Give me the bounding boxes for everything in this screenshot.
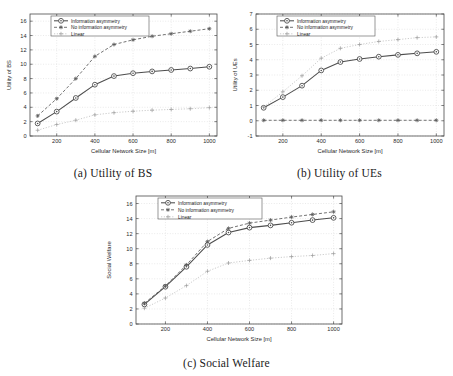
marker-circle-dot	[228, 232, 230, 234]
y-tick-label: 4	[249, 57, 252, 63]
marker-circle-dot	[94, 84, 96, 86]
x-axis-title: Cellular Network Size [m]	[206, 336, 271, 342]
y-tick-label: 4	[129, 291, 132, 297]
y-tick-label: 14	[20, 33, 26, 39]
marker-circle-dot	[113, 75, 115, 77]
marker-circle-dot	[151, 71, 153, 73]
series-line-0	[38, 67, 210, 124]
y-tick-label: 2	[23, 119, 26, 125]
y-tick-label: 16	[20, 18, 26, 24]
x-tick-label: 400	[317, 138, 326, 144]
x-tick-label: 800	[393, 138, 402, 144]
y-tick-label: 0	[129, 321, 132, 327]
y-tick-label: 2	[129, 306, 132, 312]
plot-area-b: -1012345672004006008001000Cellular Netwo…	[226, 2, 453, 166]
x-tick-label: 600	[245, 326, 254, 332]
y-tick-label: 6	[23, 90, 26, 96]
y-tick-label: 14	[126, 216, 132, 222]
legend-label-1: No information asymmetry	[297, 25, 354, 30]
y-tick-label: 1	[249, 103, 252, 109]
marker-circle-dot	[416, 53, 418, 55]
marker-circle-dot	[209, 66, 211, 68]
legend-marker-circle-dot	[167, 202, 169, 204]
x-tick-label: 600	[355, 138, 364, 144]
legend-label-2: Linear	[178, 215, 192, 220]
y-tick-label: 0	[23, 133, 26, 139]
y-tick-label: 10	[126, 246, 132, 252]
y-tick-label: 8	[129, 261, 132, 267]
plot-area-c: 02468101214162004006008001000Cellular Ne…	[100, 184, 353, 356]
y-tick-label: 16	[126, 201, 132, 207]
x-tick-label: 1000	[430, 138, 442, 144]
y-tick-label: 7	[249, 11, 252, 17]
marker-circle-dot	[301, 85, 303, 87]
legend-marker-circle-dot	[286, 20, 288, 22]
y-tick-label: 8	[23, 76, 26, 82]
x-axis-title: Cellular Network Size [m]	[91, 148, 156, 154]
marker-circle-dot	[75, 97, 77, 99]
y-tick-label: 5	[249, 42, 252, 48]
x-tick-label: 200	[278, 138, 287, 144]
marker-circle-dot	[282, 96, 284, 98]
y-tick-label: 6	[129, 276, 132, 282]
series-line-1	[144, 212, 333, 303]
figure-container: 02468101214162004006008001000Cellular Ne…	[0, 0, 453, 376]
y-tick-label: 4	[23, 104, 26, 110]
plot-area-a: 02468101214162004006008001000Cellular Ne…	[0, 2, 226, 166]
y-tick-label: 2	[249, 87, 252, 93]
marker-circle-dot	[312, 219, 314, 221]
marker-circle-dot	[397, 54, 399, 56]
x-tick-label: 800	[287, 326, 296, 332]
marker-circle-dot	[340, 61, 342, 63]
y-tick-label: 10	[20, 61, 26, 67]
subfigure-a-caption: (a) Utility of BS	[0, 167, 226, 179]
y-tick-label: 12	[126, 231, 132, 237]
y-axis-title: Social Welfare	[106, 241, 112, 278]
marker-circle-dot	[207, 244, 209, 246]
x-tick-label: 600	[128, 138, 137, 144]
chart-svg-b: -1012345672004006008001000Cellular Netwo…	[226, 2, 453, 166]
marker-circle-dot	[270, 225, 272, 227]
x-tick-label: 1000	[203, 138, 215, 144]
y-tick-label: 0	[249, 118, 252, 124]
y-axis-title: Utility of UEs	[232, 58, 238, 91]
legend-label-2: Linear	[297, 32, 311, 37]
series-line-0	[144, 218, 333, 305]
legend-label-1: No information asymmetry	[71, 25, 128, 30]
marker-circle-dot	[37, 123, 39, 125]
x-axis-title: Cellular Network Size [m]	[317, 148, 382, 154]
y-tick-label: -1	[248, 133, 253, 139]
x-tick-label: 200	[161, 326, 170, 332]
marker-circle-dot	[132, 72, 134, 74]
legend-label-0: Information asymmetry	[297, 19, 346, 24]
marker-circle-dot	[320, 70, 322, 72]
x-tick-label: 400	[203, 326, 212, 332]
series-line-2	[144, 254, 333, 309]
series-line-2	[264, 37, 437, 107]
x-tick-label: 200	[52, 138, 61, 144]
legend-marker-circle-dot	[60, 20, 62, 22]
subfigure-c-caption: (c) Social Welfare	[100, 357, 353, 369]
y-tick-label: 12	[20, 47, 26, 53]
marker-circle-dot	[249, 227, 251, 229]
marker-circle-dot	[189, 68, 191, 70]
y-tick-label: 6	[249, 26, 252, 32]
y-tick-label: 3	[249, 72, 252, 78]
y-axis-title: Utility of BS	[6, 60, 12, 90]
marker-circle-dot	[56, 111, 58, 113]
x-tick-label: 400	[90, 138, 99, 144]
marker-circle-dot	[378, 56, 380, 58]
x-tick-label: 1000	[327, 326, 339, 332]
marker-circle-dot	[333, 217, 335, 219]
marker-circle-dot	[359, 58, 361, 60]
legend-label-0: Information asymmetry	[178, 201, 227, 206]
subfigure-b-caption: (b) Utility of UEs	[226, 167, 453, 179]
subfigure-c: 02468101214162004006008001000Cellular Ne…	[100, 184, 353, 376]
series-line-1	[38, 29, 210, 116]
x-tick-label: 800	[167, 138, 176, 144]
marker-circle-dot	[170, 69, 172, 71]
series-line-2	[38, 108, 210, 131]
legend-label-0: Information asymmetry	[71, 19, 120, 24]
subfigure-b: -1012345672004006008001000Cellular Netwo…	[226, 2, 453, 180]
chart-svg-a: 02468101214162004006008001000Cellular Ne…	[0, 2, 226, 166]
